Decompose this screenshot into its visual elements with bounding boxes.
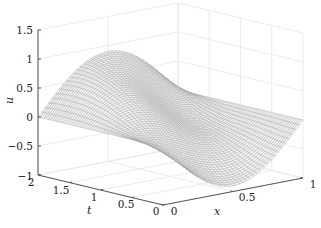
x-axis-label: x [214,205,221,218]
z-tick: −0.5 [8,140,34,152]
surface-plot: u t x −1 −0.5 0 0.5 1 1.5 0 0.5 1 1.5 2 … [0,0,321,228]
t-tick: 0 [153,205,160,217]
z-tick: 1 [26,53,33,65]
t-tick: 1 [91,191,98,203]
z-tick: 0.5 [16,82,33,94]
t-tick: 1.5 [53,184,70,196]
x-tick: 0.5 [239,191,256,203]
z-tick: 1.5 [16,24,33,36]
z-tick: 0 [26,111,33,123]
surface-mesh [38,51,303,187]
x-tick-labels: 0 0.5 1 [171,178,317,217]
t-tick: 0.5 [118,198,135,210]
x-tick: 0 [171,205,178,217]
t-axis-label: t [87,204,92,217]
x-tick: 1 [310,178,317,190]
t-tick: 2 [28,176,35,188]
z-axis-label: u [3,97,16,104]
